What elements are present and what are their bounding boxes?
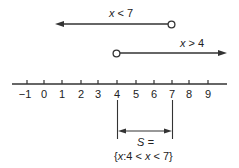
tick-label: 1: [59, 88, 65, 100]
tick-label: 9: [205, 88, 211, 100]
open-circle-icon: [113, 50, 120, 57]
tick-label: 7: [169, 88, 175, 100]
arrow-left-icon: [118, 129, 126, 134]
number-line-axis: [12, 80, 227, 84]
ray-x-less-than-7: [55, 21, 175, 28]
tick-label: 6: [151, 88, 157, 100]
label-x-less-than-7: x < 7: [109, 7, 133, 19]
tick-label: 4: [114, 88, 120, 100]
solution-set-definition: {x:4 < x < 7}: [114, 150, 173, 162]
number-line-diagram: [0, 0, 239, 168]
solution-interval-bracket: [118, 100, 173, 139]
open-circle-icon: [168, 21, 175, 28]
arrow-right-icon: [164, 129, 172, 134]
tick-label: 8: [186, 88, 192, 100]
tick-label: −1: [19, 88, 32, 100]
arrow-left-icon: [55, 21, 64, 27]
arrow-right-icon: [218, 50, 227, 56]
tick-label: 5: [133, 88, 139, 100]
solution-set-label: S =: [137, 136, 154, 148]
ray-x-greater-than-4: [113, 50, 227, 57]
tick-label: 2: [78, 88, 84, 100]
tick-label: 0: [41, 88, 47, 100]
tick-label: 3: [95, 88, 101, 100]
label-x-greater-than-4: x > 4: [180, 37, 204, 49]
